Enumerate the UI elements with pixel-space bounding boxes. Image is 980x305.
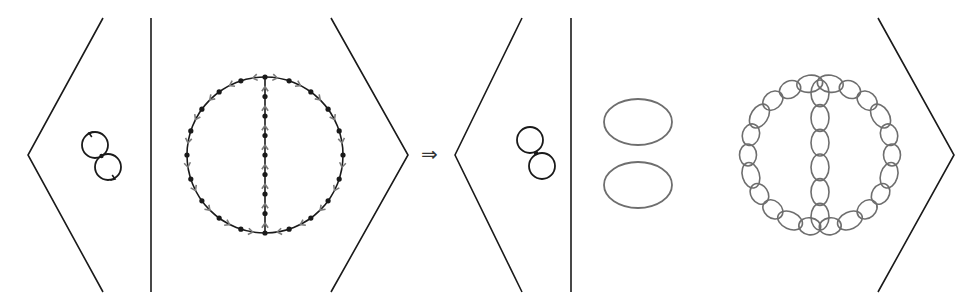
vertex-dot: [238, 227, 243, 232]
vertex-dot: [188, 177, 193, 182]
theta-graph-with-arrows: [184, 74, 346, 235]
vertex-dot: [262, 211, 267, 216]
vertex-dot: [99, 154, 103, 158]
bead: [811, 129, 829, 156]
vertex-dot: [262, 74, 267, 79]
vertex-dot: [287, 227, 292, 232]
vertex-dot: [262, 113, 267, 118]
vertex-dot: [337, 177, 342, 182]
vertex-dot: [534, 151, 538, 155]
vertex-dot: [217, 89, 222, 94]
figure-eight-loop: [82, 132, 121, 181]
vertex-dot: [262, 94, 267, 99]
right-angle-bracket: [878, 18, 954, 292]
bead: [745, 101, 773, 132]
bead: [811, 179, 829, 206]
vertex-dot: [308, 89, 313, 94]
vertex-dot: [308, 216, 313, 221]
vertex-dot: [262, 230, 267, 235]
loop: [95, 154, 121, 180]
bead: [866, 101, 894, 132]
vertex-dot: [184, 152, 189, 157]
vertex-dot: [262, 191, 267, 196]
arrowhead-icon: [110, 175, 115, 180]
vertex-dot: [326, 107, 331, 112]
left-angle-bracket: [28, 18, 103, 292]
bead: [811, 154, 829, 181]
vertex-dot: [262, 133, 267, 138]
vertex-dot: [199, 107, 204, 112]
bead: [867, 180, 893, 208]
ellipse-loop: [604, 162, 672, 208]
left-expression: [28, 18, 408, 292]
vertex-dot: [217, 216, 222, 221]
vertex-dot: [199, 198, 204, 203]
bead-chain-theta: [739, 73, 901, 236]
ellipse-loop: [604, 99, 672, 145]
vertex-dot: [287, 78, 292, 83]
figure-eight-loop: [517, 127, 555, 179]
bead: [811, 105, 829, 132]
right-expression: [455, 18, 954, 292]
bead: [759, 87, 787, 114]
ellipse-pair: [604, 99, 672, 208]
vertex-dot: [337, 128, 342, 133]
bead: [811, 80, 829, 107]
vertex-dot: [262, 152, 267, 157]
vertex-dot: [262, 172, 267, 177]
diagram-canvas: [0, 0, 980, 305]
vertex-dot: [238, 78, 243, 83]
bead: [853, 87, 881, 114]
left-angle-bracket: [455, 18, 522, 292]
bead: [853, 196, 881, 223]
vertex-dot: [326, 198, 331, 203]
loop: [517, 127, 543, 153]
implies-arrow-icon: ⇒: [421, 144, 438, 164]
loop: [529, 153, 555, 179]
arrowhead-icon: [89, 132, 94, 137]
vertex-dot: [188, 128, 193, 133]
bead: [759, 196, 787, 223]
vertex-dot: [340, 152, 345, 157]
